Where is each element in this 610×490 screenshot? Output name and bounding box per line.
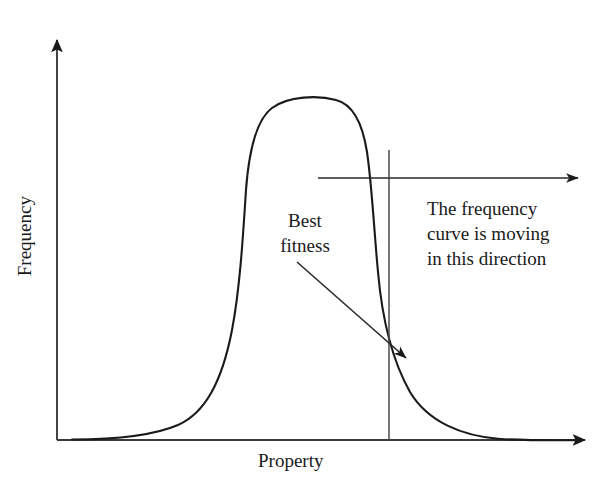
direction-annotation: The frequency curve is moving in this di… [427,196,549,271]
x-axis-title: Property [258,448,323,473]
figure-frequency-curve-shift: Frequency Property Best fitness The freq… [0,0,610,490]
best-fitness-annotation: Best fitness [250,208,360,258]
y-axis-title: Frequency [12,196,37,276]
